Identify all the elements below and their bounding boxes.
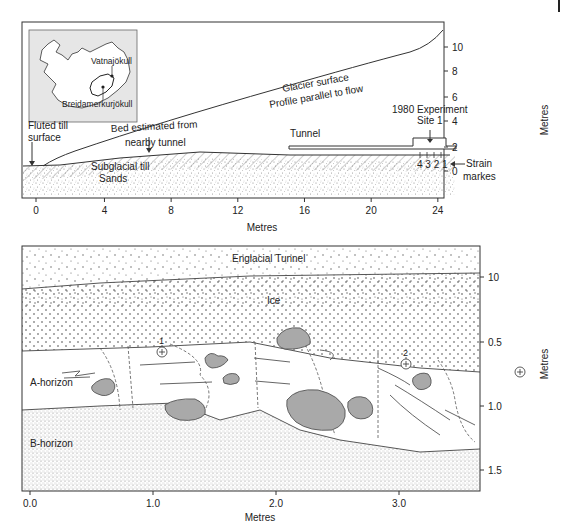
bottom-y-axis-label: Metres [539, 349, 550, 380]
b-horizon-label: B-horizon [30, 438, 73, 449]
bottom-x-axis: 0.01.02.03.0 [23, 491, 406, 509]
strain-label-2: markes [463, 171, 496, 182]
experiment-label: 1980 Experiment [392, 104, 468, 115]
y-tick-label: 0 [452, 166, 458, 177]
bottom-panel: 1 2 Englacial Tunnel Ice A-horizon B-hor… [22, 246, 550, 523]
x-tick-label: 20 [366, 205, 378, 216]
x-tick-label: 0.0 [23, 498, 37, 509]
b-horizon-layer [22, 403, 480, 491]
y-tick-label: 8 [452, 66, 458, 77]
site-label: Site 1 [417, 115, 443, 126]
bottom-y-axis: 100.51.01.5 [480, 272, 502, 476]
x-tick-label: 3.0 [392, 498, 406, 509]
x-tick-label: 2.0 [269, 498, 283, 509]
y-tick-label: 1.0 [488, 401, 502, 412]
marker-1-label: 1 [159, 336, 164, 346]
fluted-label-2: surface [28, 132, 61, 143]
y-tick-label: 1.5 [488, 465, 502, 476]
figure-svg: Vatnajökull Breidamerkurjökull Glacier s… [0, 0, 572, 529]
clast [287, 390, 346, 431]
clast [205, 353, 228, 368]
marker-3 [515, 367, 525, 377]
breidamerkurjokull-label: Breidamerkurjökull [62, 99, 132, 109]
englacial-tunnel-label: Englacial Tunnel [232, 253, 305, 264]
strain-numbers: 4 3 2 1 [417, 159, 448, 170]
page-edge-mark [558, 0, 560, 12]
clast [413, 373, 432, 389]
vatnajokull-label: Vatnajökull [91, 56, 132, 66]
ice-layer [22, 273, 480, 372]
bottom-x-axis-label: Metres [245, 512, 276, 523]
y-tick-label: 0.5 [488, 337, 502, 348]
y-tick-label: 6 [452, 92, 458, 103]
a-horizon-label: A-horizon [30, 377, 73, 388]
sands-label: Sands [99, 173, 127, 184]
tunnel-label: Tunnel [290, 128, 320, 139]
y-tick-label: 10 [452, 42, 464, 53]
x-tick-label: 24 [432, 205, 444, 216]
clast [348, 397, 373, 419]
marker-2-label: 2 [403, 348, 408, 358]
y-tick-label: 2 [452, 142, 458, 153]
x-tick-label: 8 [168, 205, 174, 216]
y-tick-label: 10 [488, 272, 500, 283]
inset-map: Vatnajökull Breidamerkurjökull [29, 30, 137, 122]
strain-label-1: Strain [466, 158, 492, 169]
top-y-axis-label: Metres [539, 105, 550, 136]
top-x-axis-label: Metres [247, 222, 278, 233]
clast [223, 374, 239, 385]
x-tick-label: 16 [299, 205, 311, 216]
till-label: Subglacial till [91, 161, 149, 172]
x-tick-label: 0 [33, 205, 39, 216]
y-tick-label: 4 [452, 116, 458, 127]
x-tick-label: 4 [102, 205, 108, 216]
x-tick-label: 12 [232, 205, 244, 216]
x-tick-label: 1.0 [146, 498, 160, 509]
clast [92, 379, 115, 396]
bed-label-2: nearby tunnel [125, 137, 186, 148]
figure: Vatnajökull Breidamerkurjökull Glacier s… [0, 0, 572, 529]
fluted-label-1: Fluted till [28, 120, 68, 131]
ice-label: Ice [267, 295, 281, 306]
top-x-axis: 04812162024 [33, 198, 444, 216]
top-panel: Vatnajökull Breidamerkurjökull Glacier s… [22, 22, 550, 233]
